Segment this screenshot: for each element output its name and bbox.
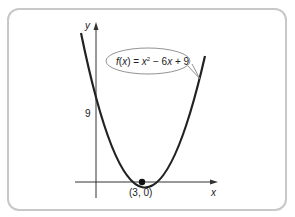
parabola-graph: f(x) = x2 − 6x + 9 y x 9 (3, 0): [0, 0, 295, 217]
callout-pointer: [188, 64, 200, 79]
function-label: f(x) = x2 − 6x + 9: [116, 56, 190, 67]
x-axis-label: x: [210, 187, 217, 198]
vertex-label: (3, 0): [129, 187, 152, 198]
y-axis-label: y: [84, 20, 91, 31]
x-axis-arrow-icon: [210, 180, 218, 185]
y-axis-arrow-icon: [94, 22, 99, 30]
vertex-dot: [139, 179, 145, 185]
y-intercept-label: 9: [85, 108, 91, 119]
